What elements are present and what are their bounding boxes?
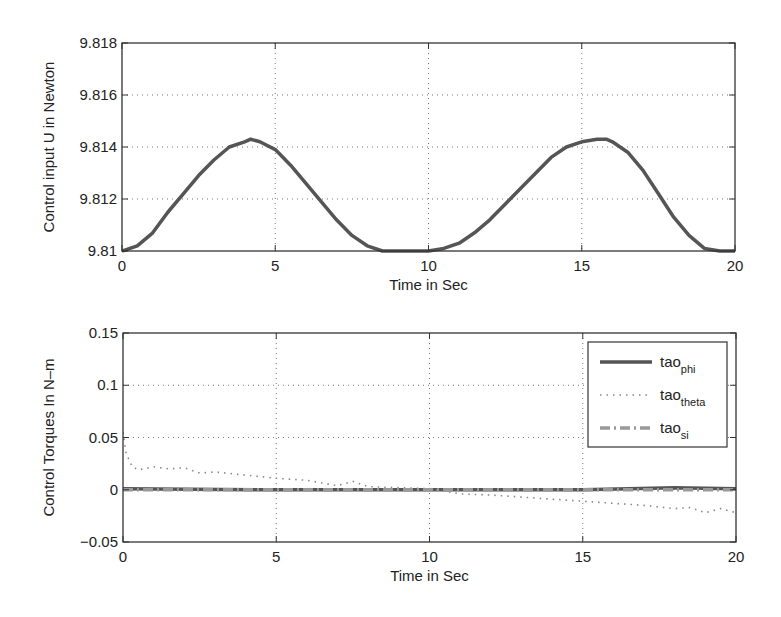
x-tick-label: 5 — [272, 548, 280, 565]
x-axis-label: Time in Sec — [389, 276, 468, 293]
plot-control-input: 051015209.819.8129.8149.8169.818Time in … — [40, 34, 743, 293]
legend: taophitaothetataosi — [588, 342, 727, 447]
y-tick-label: 0.1 — [97, 376, 118, 393]
y-tick-label: 9.816 — [79, 86, 117, 103]
x-tick-label: 15 — [574, 548, 591, 565]
x-tick-label: 10 — [421, 548, 438, 565]
y-tick-label: 9.818 — [79, 34, 117, 51]
y-tick-label: 9.81 — [88, 242, 117, 259]
figure: 051015209.819.8129.8149.8169.818Time in … — [0, 0, 781, 617]
x-tick-label: 5 — [271, 257, 279, 274]
y-axis-label: Control Torques In N–m — [40, 358, 57, 516]
x-tick-label: 10 — [420, 257, 437, 274]
axes-box — [122, 43, 735, 251]
x-axis-label: Time in Sec — [390, 567, 469, 584]
x-tick-label: 0 — [119, 548, 127, 565]
y-tick-label: 0 — [110, 481, 118, 498]
y-tick-label: −0.05 — [80, 533, 118, 550]
y-tick-label: 9.812 — [79, 190, 117, 207]
y-tick-label: 0.05 — [89, 429, 118, 446]
x-tick-label: 20 — [728, 548, 745, 565]
plot-control-torques: 05101520−0.0500.050.10.15Time in SecCont… — [40, 324, 744, 584]
y-tick-label: 9.814 — [79, 138, 117, 155]
x-tick-label: 20 — [727, 257, 744, 274]
x-tick-label: 15 — [573, 257, 590, 274]
y-axis-label: Control input U in Newton — [40, 62, 57, 233]
series-U — [122, 139, 735, 251]
y-tick-label: 0.15 — [89, 324, 118, 341]
x-tick-label: 0 — [118, 257, 126, 274]
